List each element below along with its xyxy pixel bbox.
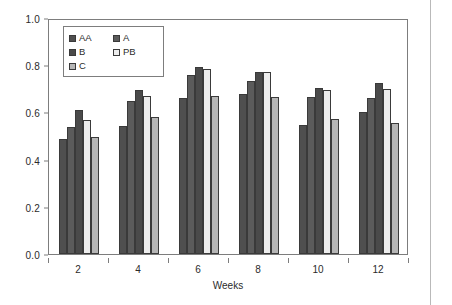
legend-swatch-icon-c (69, 63, 76, 70)
bar-group-week-8 (239, 20, 280, 254)
x-tick-mark (348, 258, 349, 263)
bar-c-week-12 (391, 123, 399, 254)
bar-a-week-4 (127, 101, 135, 254)
x-tick-label-2: 2 (75, 264, 81, 275)
x-tick-label-6: 6 (195, 264, 201, 275)
legend-swatch-icon-aa (69, 35, 76, 42)
legend-swatch-icon-a (113, 35, 120, 42)
bar-b-week-10 (315, 88, 323, 254)
y-tick-label: 1.0 (25, 14, 40, 25)
bar-pb-week-10 (323, 90, 331, 254)
legend-entry-pb: PB (113, 47, 157, 57)
bar-b-week-4 (135, 90, 143, 254)
chart-legend: AA A B PB C (63, 26, 164, 77)
bar-aa-week-10 (299, 125, 307, 254)
legend-entry-aa: AA (69, 33, 113, 43)
plot-frame: AA A B PB C (48, 19, 408, 255)
y-tick-label: 0.4 (25, 155, 40, 166)
bar-a-week-10 (307, 97, 315, 254)
y-tick-label: 0.6 (25, 108, 40, 119)
bar-c-week-4 (151, 117, 159, 254)
bar-b-week-2 (75, 110, 83, 254)
legend-label-pb: PB (123, 47, 136, 57)
legend-row: B PB (69, 45, 157, 59)
bar-b-week-8 (255, 72, 263, 254)
y-tick-label: 0.8 (25, 61, 40, 72)
bar-aa-week-6 (179, 98, 187, 254)
x-tick-mark (108, 258, 109, 263)
bar-c-week-6 (211, 96, 219, 254)
x-tick-mark (228, 258, 229, 263)
x-tick-label-10: 10 (312, 264, 323, 275)
y-tick-label: 0.0 (25, 250, 40, 261)
x-tick-label-8: 8 (255, 264, 261, 275)
legend-swatch-icon-b (69, 49, 76, 56)
x-axis: 24681012 (48, 258, 408, 280)
legend-row: C (69, 59, 157, 73)
bar-pb-week-12 (383, 89, 391, 254)
bar-c-week-8 (271, 97, 279, 254)
legend-entry-b: B (69, 47, 113, 57)
bar-aa-week-12 (359, 112, 367, 254)
x-tick-label-12: 12 (372, 264, 383, 275)
bar-pb-week-4 (143, 96, 151, 254)
bar-b-week-12 (375, 83, 383, 254)
bar-pb-week-2 (83, 120, 91, 254)
x-axis-title: Weeks (48, 280, 408, 291)
bar-b-week-6 (195, 67, 203, 254)
bar-a-week-6 (187, 75, 195, 254)
legend-row: AA A (69, 31, 157, 45)
legend-label-aa: AA (79, 33, 92, 43)
bar-a-week-12 (367, 98, 375, 254)
bar-group-week-10 (299, 20, 340, 254)
grouped-bar-chart: 0.00.20.40.60.81.0 AA A B (0, 0, 430, 305)
x-tick-mark (408, 258, 409, 263)
x-tick-label-4: 4 (135, 264, 141, 275)
bar-aa-week-4 (119, 126, 127, 254)
y-axis: 0.00.20.40.60.81.0 (0, 0, 48, 305)
x-tick-mark (288, 258, 289, 263)
legend-entry-c: C (69, 61, 113, 71)
bar-a-week-8 (247, 81, 255, 254)
x-tick-mark (48, 258, 49, 263)
legend-label-b: B (79, 47, 85, 57)
bar-aa-week-2 (59, 139, 67, 254)
x-tick-mark (168, 258, 169, 263)
bar-group-week-6 (179, 20, 220, 254)
bar-a-week-2 (67, 127, 75, 254)
bar-c-week-10 (331, 119, 339, 254)
bar-group-week-12 (359, 20, 400, 254)
bar-aa-week-8 (239, 94, 247, 254)
page-edge (430, 0, 431, 305)
legend-label-a: A (123, 33, 129, 43)
bar-c-week-2 (91, 137, 99, 254)
bar-pb-week-6 (203, 69, 211, 254)
bar-pb-week-8 (263, 72, 271, 254)
y-tick-label: 0.2 (25, 202, 40, 213)
legend-entry-a: A (113, 33, 157, 43)
legend-swatch-icon-pb (113, 49, 120, 56)
legend-label-c: C (79, 61, 86, 71)
